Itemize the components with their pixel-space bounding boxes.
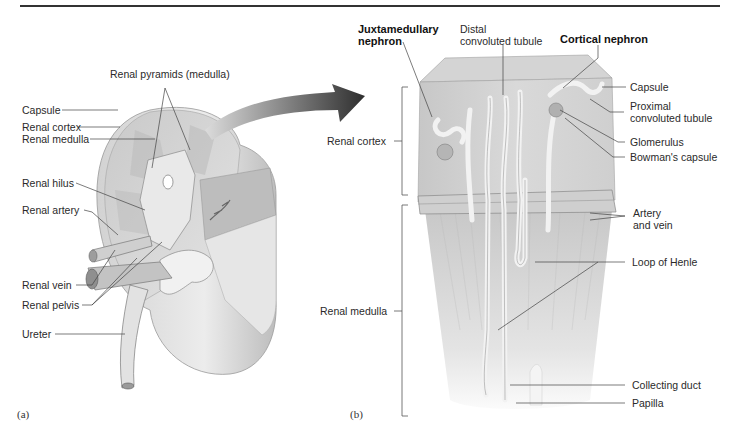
label-renal-vein: Renal vein (22, 279, 72, 291)
label-renal-hilus: Renal hilus (22, 177, 74, 189)
label-capsule-b: Capsule (630, 81, 669, 93)
label-renal-cortex-a: Renal cortex (22, 121, 81, 133)
label-capsule-a: Capsule (22, 104, 61, 116)
panel-tag-a: (a) (17, 408, 29, 420)
label-cortical-nephron: Cortical nephron (560, 33, 648, 45)
label-renal-pyramids: Renal pyramids (medulla) (110, 68, 230, 80)
label-bowmans-capsule: Bowman's capsule (630, 151, 717, 163)
label-distal-1: Distal (460, 23, 486, 35)
nephron-illustration (418, 55, 616, 409)
region-brackets (394, 87, 408, 416)
panel-tag-b: (b) (350, 408, 363, 420)
label-loop-of-henle: Loop of Henle (632, 256, 697, 268)
label-artery-vein-2: and vein (633, 219, 673, 231)
label-renal-artery: Renal artery (22, 204, 79, 216)
label-renal-medulla-b: Renal medulla (320, 305, 387, 317)
label-artery-vein-1: Artery (633, 207, 661, 219)
label-papilla: Papilla (632, 397, 664, 409)
label-distal-2: convoluted tubule (460, 35, 542, 47)
label-proximal-2: convoluted tubule (630, 112, 712, 124)
kidney-illustration (86, 107, 276, 389)
label-ureter: Ureter (22, 328, 51, 340)
label-juxtamedullary-2: nephron (358, 35, 402, 47)
label-proximal-1: Proximal (630, 100, 671, 112)
label-renal-pelvis: Renal pelvis (22, 299, 79, 311)
figure-artwork (0, 0, 737, 440)
label-glomerulus: Glomerulus (630, 136, 684, 148)
label-renal-cortex-b: Renal cortex (327, 135, 386, 147)
label-collecting-duct: Collecting duct (632, 379, 701, 391)
label-renal-medulla-a: Renal medulla (22, 133, 89, 145)
label-juxtamedullary-1: Juxtamedullary (358, 23, 439, 35)
